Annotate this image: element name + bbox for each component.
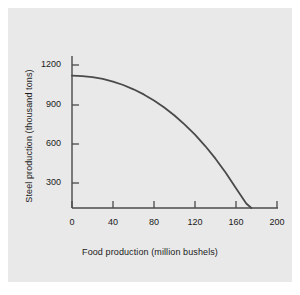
x-tick-label-40: 40 [98,217,128,227]
x-tick-label-80: 80 [139,217,169,227]
figure-panel: 1200 900 600 300 0 40 80 120 160 200 Foo… [8,8,292,282]
ppf-curve [72,76,251,208]
x-tick-label-120: 120 [180,217,210,227]
y-axis-title: Steel production (thousand tons) [24,36,34,236]
chart-plot-area: 1200 900 600 300 0 40 80 120 160 200 Foo… [8,8,292,282]
x-tick-label-0: 0 [57,217,87,227]
x-tick-label-160: 160 [221,217,251,227]
x-axis-title: Food production (million bushels) [8,247,292,257]
x-tick-label-200: 200 [262,217,292,227]
